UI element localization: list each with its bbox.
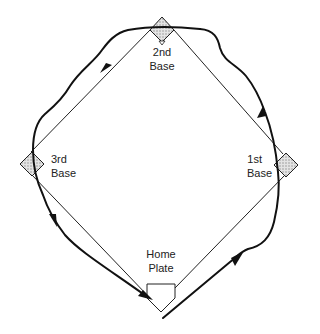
line-home-to-1st [175,175,285,288]
home-plate [147,284,175,312]
first-base-label-line2: Base [247,167,272,179]
third-base-label-line1: 3rd [51,153,67,165]
first-base-label-line1: 1st [247,153,262,165]
home-plate-label-line2: Plate [148,262,173,274]
third-base-label-line2: Base [51,167,76,179]
second-base-notch [159,41,165,45]
second-base-label-line1: 2nd [153,46,171,58]
home-plate-label-line1: Home [146,248,175,260]
arrow-icon [49,214,57,227]
second-base-label-line2: Base [149,60,174,72]
second-base-bag [150,17,174,42]
arrow-icon [231,251,244,266]
line-2nd-to-3rd [31,30,150,152]
line-2nd-to-1st [174,30,283,154]
baseball-diamond-diagram: 2nd Base 3rd Base 1st Base Home Plate [0,0,320,334]
third-base-bag [20,152,44,176]
line-3rd-to-home [32,175,148,296]
arrow-icon [257,106,266,118]
